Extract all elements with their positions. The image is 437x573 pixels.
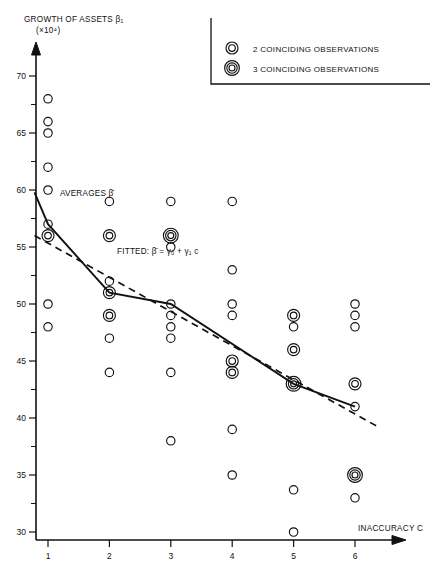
data-point [226, 355, 238, 367]
legend-label-2-coinciding: 2 COINCIDING OBSERVATIONS [253, 45, 379, 54]
data-point [351, 494, 359, 502]
data-point [44, 129, 52, 137]
fitted-line [34, 236, 376, 426]
tick-labels-group: 303540455055606570123456 [17, 71, 358, 561]
averages-annotation: AVERAGES β̄ [60, 189, 115, 198]
y-tick-label: 50 [17, 299, 27, 309]
x-tick-label: 6 [353, 551, 358, 561]
x-tick-label: 1 [46, 551, 51, 561]
legend-marker-double-circle-icon [226, 42, 238, 54]
data-point [44, 163, 52, 171]
data-point [228, 197, 236, 205]
averages-line [34, 192, 355, 406]
data-point [167, 323, 175, 331]
data-point [228, 425, 236, 433]
y-tick-label: 65 [17, 128, 27, 138]
x-tick-label: 3 [168, 551, 173, 561]
data-point [163, 228, 178, 243]
y-axis-title: GROWTH OF ASSETS β₁ [24, 15, 124, 24]
data-point [105, 334, 113, 342]
data-point [288, 309, 300, 321]
y-tick-label: 35 [17, 470, 27, 480]
data-point [103, 309, 115, 321]
data-point [103, 230, 115, 242]
tick-marks-group [29, 76, 355, 547]
y-axis-units: (×10⁴) [36, 26, 60, 35]
legend-label-3-coinciding: 3 COINCIDING OBSERVATIONS [253, 65, 379, 74]
y-tick-label: 55 [17, 242, 27, 252]
fitted-annotation: FITTED: β̄ = γ₀ + γ₁ c [117, 247, 199, 256]
y-tick-label: 60 [17, 185, 27, 195]
data-point [348, 468, 363, 483]
data-point [226, 366, 238, 378]
y-tick-label: 30 [17, 527, 27, 537]
data-point [105, 368, 113, 376]
data-point [44, 95, 52, 103]
scatter-plot-canvas: 303540455055606570123456 GROWTH OF ASSET… [0, 0, 437, 573]
legend: 2 COINCIDING OBSERVATIONS 3 COINCIDING O… [211, 18, 430, 84]
x-axis-title: INACCURACY C [358, 524, 423, 533]
data-point [351, 323, 359, 331]
data-points-group [42, 95, 362, 537]
data-point [289, 486, 297, 494]
data-point [44, 117, 52, 125]
data-point [105, 197, 113, 205]
x-tick-label: 4 [230, 551, 235, 561]
data-point [289, 323, 297, 331]
y-tick-label: 70 [17, 71, 27, 81]
x-tick-label: 5 [291, 551, 296, 561]
data-point [44, 186, 52, 194]
data-point [289, 528, 297, 536]
y-tick-label: 40 [17, 413, 27, 423]
data-point [228, 266, 236, 274]
data-point [228, 471, 236, 479]
data-point [44, 323, 52, 331]
data-point [167, 197, 175, 205]
data-point [288, 344, 300, 356]
trend-lines-group [34, 192, 376, 426]
data-point [167, 437, 175, 445]
chart-figure: 303540455055606570123456 GROWTH OF ASSET… [0, 0, 437, 573]
legend-marker-triple-circle-icon [225, 61, 240, 76]
x-tick-label: 2 [107, 551, 112, 561]
data-point [167, 334, 175, 342]
legend-markers [225, 42, 240, 75]
data-point [228, 300, 236, 308]
data-point [349, 378, 361, 390]
data-point [44, 300, 52, 308]
data-point [228, 311, 236, 319]
y-tick-label: 45 [17, 356, 27, 366]
data-point [351, 300, 359, 308]
data-point [167, 368, 175, 376]
data-point [351, 311, 359, 319]
data-point [42, 230, 54, 242]
